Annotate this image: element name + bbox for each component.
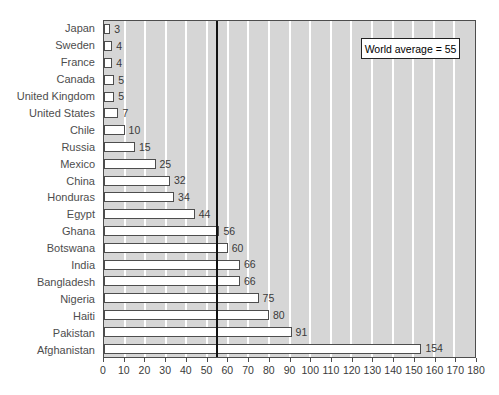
bar-row-afghanistan: 154 [104, 340, 475, 357]
bar-row-ghana: 56 [104, 223, 475, 240]
bar-value-label: 15 [139, 142, 151, 153]
x-tick-180 [476, 358, 477, 362]
bar-row-united-kingdom: 5 [104, 88, 475, 105]
category-label-botswana: Botswana [0, 240, 95, 257]
bar [104, 327, 292, 337]
category-label-united-states: United States [0, 105, 95, 122]
bar [104, 344, 421, 354]
bar-row-russia: 15 [104, 139, 475, 156]
bar-value-label: 34 [178, 192, 190, 203]
value-axis: 0102030405060708090100110120130140150160… [103, 358, 476, 392]
bar-value-label: 5 [118, 75, 124, 86]
bar-row-india: 66 [104, 256, 475, 273]
x-tick-80 [269, 358, 270, 362]
world-average-annotation-text: World average = 55 [365, 43, 457, 55]
category-label-japan: Japan [0, 20, 95, 37]
bar-row-bangladesh: 66 [104, 273, 475, 290]
bar [104, 176, 170, 186]
bar-value-label: 7 [122, 108, 128, 119]
bar-value-label: 5 [118, 91, 124, 102]
x-tick-label-110: 110 [323, 365, 340, 376]
bar-row-egypt: 44 [104, 206, 475, 223]
category-label-afghanistan: Afghanistan [0, 341, 95, 358]
bar-row-honduras: 34 [104, 189, 475, 206]
x-tick-label-60: 60 [221, 365, 233, 376]
bar [104, 310, 269, 320]
x-tick-70 [248, 358, 249, 362]
bar [104, 192, 174, 202]
bar-row-chile: 10 [104, 122, 475, 139]
x-tick-label-20: 20 [139, 365, 151, 376]
x-tick-120 [352, 358, 353, 362]
bar [104, 142, 135, 152]
bar [104, 260, 240, 270]
x-tick-label-120: 120 [343, 365, 361, 376]
x-tick-label-100: 100 [301, 365, 319, 376]
bar-value-label: 60 [232, 243, 244, 254]
bar [104, 276, 240, 286]
x-tick-label-150: 150 [405, 365, 423, 376]
category-label-chile: Chile [0, 121, 95, 138]
world-average-annotation-box: World average = 55 [361, 38, 460, 59]
x-tick-label-160: 160 [426, 365, 444, 376]
x-tick-90 [290, 358, 291, 362]
bar [104, 92, 114, 102]
x-tick-label-30: 30 [159, 365, 171, 376]
x-tick-110 [331, 358, 332, 362]
x-tick-label-50: 50 [201, 365, 213, 376]
x-tick-label-80: 80 [263, 365, 275, 376]
bar [104, 41, 112, 51]
category-label-egypt: Egypt [0, 206, 95, 223]
category-label-france: France [0, 54, 95, 71]
x-tick-150 [414, 358, 415, 362]
x-tick-170 [455, 358, 456, 362]
x-tick-label-140: 140 [384, 365, 402, 376]
bar-row-china: 32 [104, 172, 475, 189]
plot-area: 34455710152532344456606666758091154 [103, 20, 476, 358]
category-label-india: India [0, 257, 95, 274]
category-label-united-kingdom: United Kingdom [0, 88, 95, 105]
bar-row-nigeria: 75 [104, 290, 475, 307]
x-tick-60 [227, 358, 228, 362]
bar-row-haiti: 80 [104, 307, 475, 324]
x-tick-30 [165, 358, 166, 362]
bar-value-label: 66 [244, 259, 256, 270]
x-tick-140 [393, 358, 394, 362]
category-label-bangladesh: Bangladesh [0, 274, 95, 291]
world-average-reference-line [216, 21, 218, 357]
x-tick-40 [186, 358, 187, 362]
bar-value-label: 75 [263, 293, 275, 304]
category-label-sweden: Sweden [0, 37, 95, 54]
bar [104, 125, 125, 135]
bar-value-label: 4 [116, 58, 122, 69]
bar-value-label: 44 [199, 209, 211, 220]
bar [104, 159, 156, 169]
bar [104, 293, 259, 303]
bar [104, 58, 112, 68]
bar [104, 108, 118, 118]
x-tick-50 [207, 358, 208, 362]
x-tick-130 [372, 358, 373, 362]
x-tick-label-10: 10 [118, 365, 130, 376]
x-tick-100 [310, 358, 311, 362]
x-tick-label-180: 180 [467, 365, 485, 376]
bar-value-label: 32 [174, 175, 186, 186]
x-tick-160 [435, 358, 436, 362]
x-tick-0 [103, 358, 104, 362]
bar-row-canada: 5 [104, 71, 475, 88]
bar-row-japan: 3 [104, 21, 475, 38]
x-tick-20 [144, 358, 145, 362]
bar-value-label: 80 [273, 310, 285, 321]
category-label-mexico: Mexico [0, 155, 95, 172]
bar-row-pakistan: 91 [104, 323, 475, 340]
bar-value-label: 25 [160, 159, 172, 170]
category-label-russia: Russia [0, 138, 95, 155]
x-tick-label-170: 170 [447, 365, 465, 376]
bar-value-label: 91 [296, 327, 308, 338]
x-tick-label-130: 130 [364, 365, 382, 376]
bar [104, 75, 114, 85]
category-label-haiti: Haiti [0, 307, 95, 324]
bar-value-label: 4 [116, 41, 122, 52]
bar-row-botswana: 60 [104, 239, 475, 256]
category-label-ghana: Ghana [0, 223, 95, 240]
